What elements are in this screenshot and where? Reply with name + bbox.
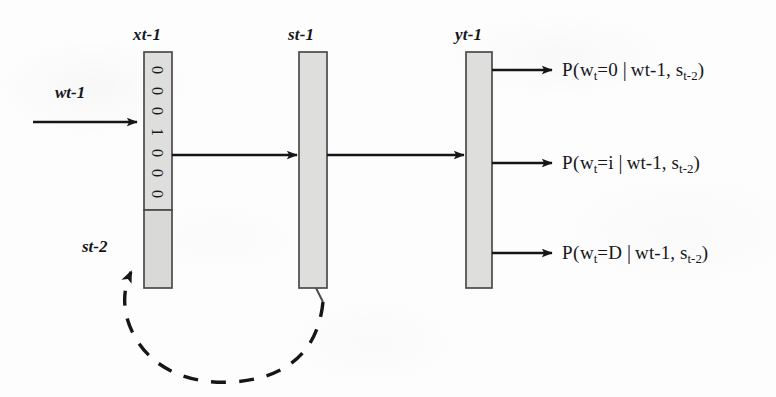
prob-suffix: ): [702, 242, 708, 263]
prob-var: w: [580, 242, 594, 263]
prob-suffix: ): [698, 59, 704, 80]
prob-condition-bar: |: [622, 241, 635, 264]
prob-eq: =D: [597, 242, 622, 263]
prob-eq: =i: [597, 152, 613, 173]
layer-bar-x-lower: [144, 210, 172, 288]
layer-bar-y: [466, 52, 492, 288]
prob-var: w: [580, 59, 594, 80]
layer-label-y: yt-1: [455, 25, 482, 45]
prob-comma: ,: [666, 59, 676, 80]
output-probability-D: P(wt=D|wt-1, st-2): [562, 241, 708, 267]
prob-cond-1: wt-1: [627, 152, 662, 173]
prob-prefix: P(: [562, 242, 580, 263]
prob-cond-2-sub: t-2: [679, 161, 693, 176]
prob-comma: ,: [662, 152, 672, 173]
layer-label-x: xt-1: [133, 25, 161, 45]
prob-cond-2-var: s: [672, 152, 680, 173]
prob-condition-bar: |: [614, 151, 627, 174]
prob-cond-1: wt-1: [635, 242, 670, 263]
prob-comma: ,: [670, 242, 680, 263]
output-probability-0: P(wt=0|wt-1, st-2): [562, 58, 704, 84]
prob-cond-2-sub: t-2: [688, 251, 702, 266]
recurrence-tail-stub: [316, 288, 323, 302]
prob-condition-bar: |: [618, 58, 631, 81]
prob-suffix: ): [693, 152, 699, 173]
layer-bar-s: [299, 52, 327, 288]
output-probability-i: P(wt=i|wt-1, st-2): [562, 151, 700, 177]
layer-label-s: st-1: [288, 25, 314, 45]
layer-bar-x-upper: [144, 52, 172, 210]
prob-prefix: P(: [562, 59, 580, 80]
prob-cond-2-var: s: [680, 242, 688, 263]
feedback-arrow-label: st-2: [82, 237, 108, 257]
rnn-architecture-figure: 0 0 0 1 0 0 0 xt-1 st-1 yt-1 wt-1 st-2 P…: [0, 0, 776, 397]
prob-eq: =0: [597, 59, 617, 80]
prob-prefix: P(: [562, 152, 580, 173]
prob-var: w: [580, 152, 594, 173]
prob-cond-1: wt-1: [631, 59, 666, 80]
prob-cond-2-sub: t-2: [683, 68, 697, 83]
input-arrow-label: wt-1: [55, 83, 85, 103]
